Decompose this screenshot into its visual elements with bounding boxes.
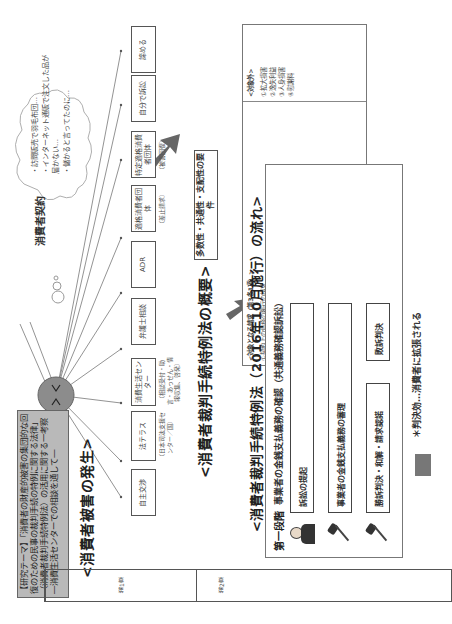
- remedy-give-up: 諦める: [131, 26, 156, 73]
- chapter-2-label: 第2章: [217, 578, 226, 594]
- remedy-note: （差止請求）: [158, 185, 166, 232]
- stage-title: 事業者の金銭支払義務の確認（共通義務確認訴訟）: [272, 298, 285, 505]
- remedy-label: 適格消費者団体: [135, 186, 153, 231]
- remedy-label: 消費生活センター: [135, 359, 153, 405]
- requirements-text: 多数性・共通性・支配性の要件: [196, 151, 216, 259]
- rotated-page: 【研究テーマ】「消費者の財産的被害の集団的な回復のための民事の裁判手続の特例に関…: [0, 0, 452, 624]
- chapter-table: 第1章 第2章: [44, 569, 452, 602]
- remedy-lawyer: 弁護士相談: [131, 298, 156, 345]
- remedy-label: 自主交渉: [139, 479, 148, 507]
- excluded-claim-item: ②逸失利益: [268, 29, 277, 97]
- remedy-adr: ADR: [131, 241, 156, 288]
- excluded-claim-item: ①拡大損害: [259, 29, 268, 97]
- remedy-houterasu: 法テラス: [131, 411, 156, 461]
- requirements-box: 多数性・共通性・支配性の要件: [194, 150, 218, 260]
- bubble-line: ・インターネット通販で注文した品が届かない…: [41, 54, 62, 174]
- gavel-icon: [367, 519, 389, 545]
- remedy-note: （被害回復）: [158, 131, 166, 178]
- step-trial: 事業者の金銭支払義務の審理: [328, 303, 352, 513]
- chapter-2-cell[interactable]: 第2章: [196, 570, 245, 601]
- outcome-lose: 敗訴判決: [366, 303, 390, 361]
- contract-label: 消費者契約: [32, 196, 47, 246]
- remedy-label: 諦める: [139, 39, 148, 60]
- bubble-line: ・訪問販売で羽毛布団…: [30, 54, 41, 174]
- remedy-qualified-org: 適格消費者団体: [131, 185, 156, 232]
- handshake-icon: [38, 377, 74, 413]
- step-label: 訴訟の提起: [297, 467, 308, 507]
- remedy-label: 特定適格消費者団体: [135, 132, 153, 177]
- remedy-note: （日本司法支援センター／国）: [158, 411, 173, 461]
- research-theme-text: 【研究テーマ】「消費者の財産的被害の集団的な回復のための民事の裁判手続の特例に関…: [19, 414, 59, 594]
- outcome-win: 勝訴判決・和解・請求認諾: [366, 383, 390, 513]
- outcome-label: 敗訴判決: [373, 323, 384, 355]
- excluded-claim-item: ④慰謝料: [286, 29, 295, 97]
- thought-bubble: ・訪問販売で羽毛布団… ・インターネット通販で注文した品が届かない… ・儲かると…: [30, 54, 72, 174]
- remedy-own-lawsuit: 自分で訴訟: [131, 75, 156, 122]
- step-file-lawsuit: 訴訟の提起: [290, 303, 314, 513]
- procedure-flow-box: 第一段階 事業者の金銭支払義務の確認（共通義務確認訴訟） 訴訟の提起 事業者の金…: [265, 164, 403, 558]
- remedy-label: 法テラス: [139, 422, 148, 450]
- lawyer-person-icon: [290, 523, 316, 545]
- bubble-line: ・儲かると言ってたのに…: [62, 54, 73, 174]
- excluded-claims-column: <対象外> ①拡大損害 ②逸失利益 ③人身損害 ④慰謝料: [243, 25, 366, 101]
- remedy-label: 自分で訴訟: [139, 81, 148, 116]
- step-label: 事業者の金銭支払義務の審理: [335, 403, 346, 507]
- gavel-icon: [329, 519, 351, 545]
- excluded-claim-item: ③人身損害: [277, 29, 286, 97]
- judgment-effect-note: ＊判決効…消費者に拡張される: [410, 312, 423, 438]
- outcome-label: 勝訴判決・和解・請求認諾: [373, 411, 384, 507]
- remedy-specified-qualified-org: 特定適格消費者団体: [131, 131, 156, 178]
- chapter-blank-cell: [245, 570, 451, 601]
- section-heading-flow: <消費者裁判手続特例法（2016年10月施行）の流れ>: [246, 195, 265, 532]
- remedy-label: 弁護士相談: [139, 304, 148, 339]
- remedy-label: ADR: [139, 257, 148, 272]
- section-heading-overview: <消費者裁判手続特例法の概要>: [194, 265, 214, 478]
- excluded-claims-title: <対象外>: [246, 29, 255, 97]
- document-frame: 【研究テーマ】「消費者の財産的被害の集団的な回復のための民事の裁判手続の特例に関…: [0, 0, 452, 624]
- remedy-consumer-center: 消費生活センター: [131, 358, 156, 406]
- remedy-note: （相談受付・助言・あっせん・情報収集、啓発）: [158, 356, 181, 406]
- remedy-self-negotiation: 自主交渉: [131, 469, 156, 516]
- chapter-1-label: 第1章: [117, 578, 126, 594]
- section-heading-occurrence: <消費者被害の発生>: [76, 438, 96, 578]
- chapter-1-cell[interactable]: 第1章: [45, 570, 196, 601]
- stage-label: 第一段階: [271, 511, 286, 551]
